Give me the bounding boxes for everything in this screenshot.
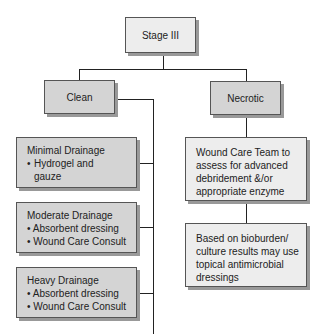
node-clean: Clean xyxy=(44,80,115,114)
node-title: Minimal Drainage xyxy=(27,144,136,157)
node-label: Clean xyxy=(66,91,92,104)
node-text: Wound Care Team to assess for advanced d… xyxy=(196,146,300,198)
node-label: Stage III xyxy=(142,29,179,42)
connector-to-clean xyxy=(79,69,80,80)
connector-necrotic-mid xyxy=(246,200,247,223)
node-label: Necrotic xyxy=(227,92,264,105)
connector-heavy xyxy=(137,293,154,294)
connector-moderate xyxy=(137,227,154,228)
node-necrotic: Necrotic xyxy=(210,81,281,115)
connector-clean-spine xyxy=(153,99,154,334)
bullet: • xyxy=(27,236,31,247)
node-heavy-drainage: Heavy Drainage • Absorbent dressing • Wo… xyxy=(16,267,137,318)
node-title: Heavy Drainage xyxy=(27,274,136,287)
node-stage-iii: Stage III xyxy=(125,17,196,53)
bullet-text: Absorbent dressing xyxy=(33,223,119,234)
bullet-text: Absorbent dressing xyxy=(33,288,119,299)
connector-to-necrotic xyxy=(246,69,247,81)
node-minimal-drainage: Minimal Drainage • Hydrogel and gauze xyxy=(16,137,137,188)
bullet-text: Wound Care Consult xyxy=(33,236,126,247)
connector-minimal xyxy=(137,163,154,164)
node-bioburden: Based on bioburden/ culture results may … xyxy=(185,223,307,287)
node-title: Moderate Drainage xyxy=(27,209,136,222)
bullet: • xyxy=(27,157,34,183)
connector-necrotic-down xyxy=(246,115,247,137)
bullet: • xyxy=(27,301,31,312)
node-text: Based on bioburden/ culture results may … xyxy=(196,232,302,284)
node-moderate-drainage: Moderate Drainage • Absorbent dressing •… xyxy=(16,202,137,253)
bullet-text: Hydrogel and gauze xyxy=(34,157,104,183)
connector-root-down xyxy=(163,52,164,69)
bullet: • xyxy=(27,288,31,299)
bullet: • xyxy=(27,223,31,234)
connector-branch-horizontal xyxy=(79,69,247,70)
node-wound-care-team: Wound Care Team to assess for advanced d… xyxy=(185,137,307,201)
bullet-text: Wound Care Consult xyxy=(33,301,126,312)
connector-clean-right xyxy=(115,99,154,100)
